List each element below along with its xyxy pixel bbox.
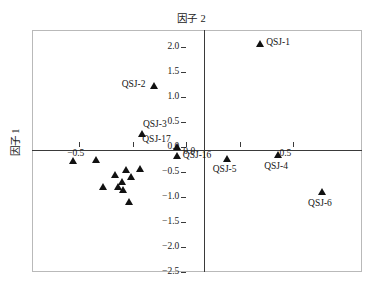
data-point-marker [118,178,126,185]
data-point-marker [127,173,135,180]
data-point-label: QSJ-17 [142,134,171,144]
data-point-marker [136,165,144,172]
data-point-marker [99,183,107,190]
data-point-marker [173,143,181,150]
data-point-label: QSJ-6 [308,198,332,208]
data-point-marker [274,151,282,158]
y-axis-tick-label: −1.5 [158,216,179,226]
x-axis-tick [79,142,80,147]
data-point-label: QSJ-4 [264,161,288,171]
y-axis-tick-label: −0.5 [158,166,179,176]
scatter-plot-figure: 因子 2 因子 1 −0.50.00.52.01.51.00.50.0−0.5−… [0,0,383,287]
data-point-marker [125,198,133,205]
data-point-marker [256,40,264,47]
data-point-marker [111,171,119,178]
y-axis-tick [181,172,186,173]
x-axis-tick [293,142,294,147]
y-axis-tick [181,47,186,48]
x-axis-tick [133,142,134,147]
y-axis-tick [181,97,186,98]
y-axis-tick [181,72,186,73]
data-point-marker [122,166,130,173]
y-axis-tick [181,122,186,123]
data-point-marker [92,156,100,163]
data-point-label: QSJ-1 [266,37,290,47]
y-axis-tick [181,247,186,248]
data-point-label: QSJ-2 [122,79,146,89]
y-axis-tick-label: 2.0 [158,41,179,51]
x-axis-tick [240,142,241,147]
y-axis-tick [181,197,186,198]
data-point-marker [223,155,231,162]
y-axis-tick-label: 1.5 [158,66,179,76]
data-point-label: QSJ-16 [183,150,212,160]
data-point-marker [69,157,77,164]
y-axis-tick-label: −2.0 [158,241,179,251]
data-point-label: QSJ-3 [143,119,167,129]
data-point-label: QSJ-5 [213,164,237,174]
y-axis-tick [181,222,186,223]
top-axis-title: 因子 2 [0,10,383,25]
y-axis-tick-label: −2.5 [158,266,179,276]
data-point-marker [119,186,127,193]
data-point-marker [173,152,181,159]
y-axis-tick [181,272,186,273]
data-point-marker [150,82,158,89]
y-axis-tick-label: −1.0 [158,191,179,201]
data-point-marker [318,188,326,195]
y-axis-tick-label: 1.0 [158,91,179,101]
left-axis-title: 因子 1 [7,113,22,173]
